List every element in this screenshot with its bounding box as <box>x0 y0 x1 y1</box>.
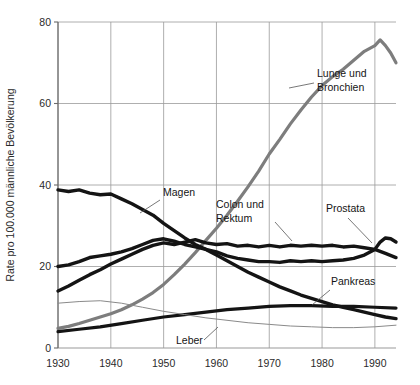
series-annotation-label: Lunge und <box>317 67 367 79</box>
x-tick-label: 1970 <box>258 357 282 369</box>
annotation-leader-line <box>289 83 314 88</box>
y-axis-title: Rate pro 100.000 männliche Bevölkerung <box>4 88 16 281</box>
x-tick-label: 1990 <box>363 357 387 369</box>
y-tick-label: 40 <box>39 179 51 191</box>
x-tick-label: 1940 <box>99 357 123 369</box>
series-annotation-label: Colon und <box>216 198 264 210</box>
y-tick-label: 0 <box>45 342 51 354</box>
series-annotation-label: Rektum <box>216 212 252 224</box>
chart-canvas: 0204060801930194019501960197019801990Rat… <box>0 0 420 385</box>
series-annotation-label: Magen <box>163 186 195 198</box>
series-annotation-label: Leber <box>176 334 203 346</box>
y-tick-label: 80 <box>39 16 51 28</box>
x-tick-label: 1980 <box>310 357 334 369</box>
x-tick-label: 1930 <box>46 357 70 369</box>
y-tick-label: 60 <box>39 97 51 109</box>
annotation-leader-line <box>348 218 372 243</box>
annotation-leader-line <box>275 222 292 241</box>
series-annotation-label: Bronchien <box>317 81 364 93</box>
x-tick-label: 1960 <box>205 357 229 369</box>
series-annotation-label: Prostata <box>326 202 365 214</box>
annotation-leader-line <box>204 327 218 340</box>
cancer-mortality-line-chart: 0204060801930194019501960197019801990Rat… <box>0 0 420 385</box>
y-tick-label: 20 <box>39 260 51 272</box>
x-tick-label: 1950 <box>152 357 176 369</box>
annotation-leader-line <box>140 200 160 213</box>
series-annotation-label: Pankreas <box>331 275 375 287</box>
